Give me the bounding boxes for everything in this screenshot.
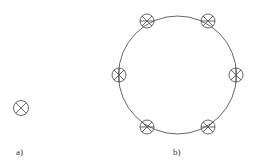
circle-spoke-icon: [140, 14, 154, 28]
circle-spoke-icon: [229, 68, 243, 82]
circle-spoke-icon: [201, 14, 215, 28]
circle-spoke-icon: [201, 120, 215, 134]
panel-b-label: b): [173, 147, 181, 157]
figure: a) b): [0, 0, 256, 167]
diagram-canvas: [0, 0, 256, 167]
circle-spoke-icon: [112, 68, 126, 82]
ring-circle: [119, 16, 237, 134]
circle-spoke-icon: [140, 120, 154, 134]
panel-a-label: a): [16, 147, 23, 157]
circle-x-icon: [14, 101, 29, 116]
